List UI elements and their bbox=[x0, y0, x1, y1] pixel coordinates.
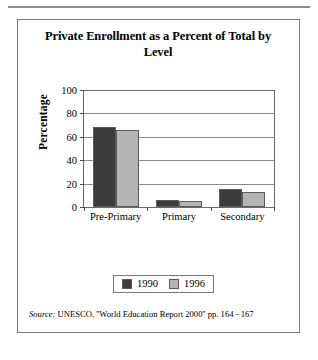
legend-swatch-1990 bbox=[122, 279, 132, 289]
x-tick-mark bbox=[147, 207, 148, 211]
page-top-rule bbox=[8, 6, 310, 8]
legend-item-1990[interactable]: 1990 bbox=[122, 278, 158, 289]
y-axis-label: Percentage bbox=[37, 67, 49, 177]
legend-item-1996[interactable]: 1996 bbox=[169, 278, 205, 289]
bar-secondary-1996 bbox=[242, 192, 265, 207]
legend-swatch-1996 bbox=[169, 279, 179, 289]
chart-title: Private Enrollment as a Percent of Total… bbox=[32, 28, 284, 60]
bar-secondary-1990 bbox=[219, 189, 242, 207]
source-note: Source: UNESCO, ''World Education Report… bbox=[29, 309, 254, 319]
x-tick-label-secondary: Secondary bbox=[220, 211, 264, 222]
bar-primary-1990 bbox=[156, 200, 179, 207]
y-tick-label: 0 bbox=[72, 202, 77, 213]
y-tick-label: 20 bbox=[67, 178, 78, 189]
y-tick-label: 60 bbox=[67, 131, 78, 142]
x-tick-label-pre-primary: Pre-Primary bbox=[90, 211, 141, 222]
plot-area: 020406080100 Pre-PrimaryPrimarySecondary bbox=[83, 90, 274, 208]
x-tick-mark bbox=[274, 207, 275, 211]
legend-label-1990: 1990 bbox=[137, 278, 158, 289]
x-tick-mark bbox=[84, 207, 85, 211]
x-tick-label-primary: Primary bbox=[162, 211, 196, 222]
y-tick-label: 40 bbox=[67, 155, 78, 166]
chart-legend: 1990 1996 bbox=[113, 275, 214, 293]
x-tick-mark bbox=[211, 207, 212, 211]
source-prefix: Source: bbox=[29, 309, 55, 319]
legend-label-1996: 1996 bbox=[184, 278, 205, 289]
figure-container: Private Enrollment as a Percent of Total… bbox=[17, 19, 300, 333]
source-text: UNESCO, ''World Education Report 2000'' … bbox=[58, 309, 254, 319]
y-tick-label: 100 bbox=[61, 85, 77, 96]
bar-pre-primary-1990 bbox=[93, 127, 116, 207]
bar-primary-1996 bbox=[179, 201, 202, 207]
y-tick-label: 80 bbox=[67, 108, 78, 119]
bar-pre-primary-1996 bbox=[116, 130, 139, 207]
bars-layer bbox=[84, 90, 274, 207]
plot-wrapper: Percentage 020406080100 Pre-PrimaryPrima… bbox=[18, 72, 301, 232]
plot-right-edge bbox=[274, 90, 275, 207]
